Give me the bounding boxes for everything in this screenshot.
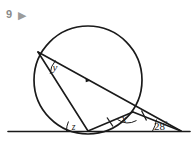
angle-28-value: 28 (154, 120, 166, 132)
degree-symbol: ° (165, 120, 168, 128)
angle-label-y: y (52, 61, 58, 73)
geometry-figure: 9 ▶ y z x (0, 0, 196, 145)
angle-label-z: z (71, 122, 76, 132)
angle-label-28: 28° (154, 120, 168, 132)
chord-line-a-to-b (38, 52, 88, 131)
geometry-diagram-svg: y z x 28° (0, 0, 196, 145)
angle-label-x: x (121, 112, 127, 124)
